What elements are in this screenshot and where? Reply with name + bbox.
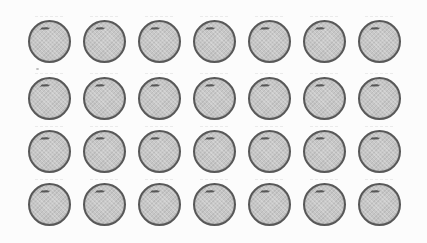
orange-stem-icon bbox=[203, 135, 217, 142]
orange-stem-icon bbox=[258, 82, 272, 89]
orange-stem-icon bbox=[38, 135, 52, 142]
orange-stem-icon bbox=[38, 82, 52, 89]
orange-stem-icon bbox=[258, 135, 272, 142]
orange-image bbox=[303, 183, 346, 226]
orange-image bbox=[303, 130, 346, 173]
scan-speck-artifact bbox=[36, 68, 39, 70]
orange-image bbox=[83, 130, 126, 173]
orange-stem-icon bbox=[148, 82, 162, 89]
orange-image bbox=[138, 20, 181, 63]
orange-stem-icon bbox=[258, 25, 272, 32]
orange-image bbox=[83, 20, 126, 63]
orange-image bbox=[193, 77, 236, 120]
orange-image bbox=[248, 183, 291, 226]
orange-image bbox=[28, 20, 71, 63]
orange-stem-icon bbox=[93, 135, 107, 142]
orange-image bbox=[28, 77, 71, 120]
orange-stem-icon bbox=[313, 135, 327, 142]
orange-image bbox=[138, 130, 181, 173]
orange-stem-icon bbox=[203, 25, 217, 32]
orange-stem-icon bbox=[258, 188, 272, 195]
orange-image bbox=[303, 77, 346, 120]
orange-stem-icon bbox=[93, 82, 107, 89]
orange-image bbox=[83, 183, 126, 226]
orange-stem-icon bbox=[368, 82, 382, 89]
orange-image bbox=[248, 77, 291, 120]
orange-stem-icon bbox=[203, 82, 217, 89]
orange-stem-icon bbox=[368, 25, 382, 32]
orange-grid bbox=[0, 0, 427, 243]
orange-stem-icon bbox=[38, 188, 52, 195]
orange-image bbox=[358, 130, 401, 173]
worksheet-image bbox=[0, 0, 427, 243]
orange-stem-icon bbox=[203, 188, 217, 195]
orange-stem-icon bbox=[313, 188, 327, 195]
orange-stem-icon bbox=[368, 135, 382, 142]
orange-stem-icon bbox=[148, 188, 162, 195]
orange-image bbox=[248, 20, 291, 63]
orange-image bbox=[248, 130, 291, 173]
orange-image bbox=[28, 183, 71, 226]
orange-image bbox=[193, 130, 236, 173]
orange-image bbox=[138, 183, 181, 226]
orange-image bbox=[193, 183, 236, 226]
orange-stem-icon bbox=[148, 25, 162, 32]
orange-image bbox=[28, 130, 71, 173]
orange-image bbox=[358, 20, 401, 63]
orange-image bbox=[193, 20, 236, 63]
orange-stem-icon bbox=[148, 135, 162, 142]
orange-image bbox=[138, 77, 181, 120]
orange-stem-icon bbox=[93, 188, 107, 195]
orange-stem-icon bbox=[38, 25, 52, 32]
orange-image bbox=[358, 183, 401, 226]
orange-stem-icon bbox=[313, 25, 327, 32]
orange-image bbox=[358, 77, 401, 120]
orange-image bbox=[303, 20, 346, 63]
orange-stem-icon bbox=[313, 82, 327, 89]
orange-image bbox=[83, 77, 126, 120]
orange-stem-icon bbox=[368, 188, 382, 195]
orange-stem-icon bbox=[93, 25, 107, 32]
